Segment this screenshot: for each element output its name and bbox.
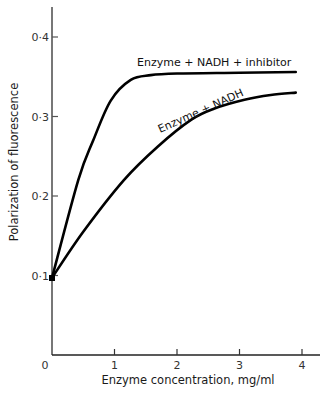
x-tick-label: 3 bbox=[236, 359, 243, 372]
series-lines bbox=[52, 72, 296, 278]
y-ticks: 0·10·20·30·4 bbox=[32, 31, 59, 283]
series-line-inhibitor bbox=[52, 72, 296, 278]
y-tick-label: 0·2 bbox=[32, 190, 50, 203]
series-label-inhibitor: Enzyme + NADH + inhibitor bbox=[137, 56, 292, 69]
y-tick-label: 0·3 bbox=[32, 111, 50, 124]
series-label-nadh: Enzyme + NADH bbox=[156, 86, 246, 135]
x-tick-label: 2 bbox=[174, 359, 181, 372]
x-tick-label: 4 bbox=[299, 359, 306, 372]
origin-point-marker bbox=[49, 275, 55, 281]
chart-figure: 0·10·20·30·4 01234 Enzyme + NADH + inhib… bbox=[0, 0, 330, 396]
y-axis-title: Polarization of fluorescence bbox=[7, 83, 21, 241]
x-axis-title: Enzyme concentration, mg/ml bbox=[101, 373, 274, 387]
y-tick-label: 0·4 bbox=[32, 31, 50, 44]
x-tick-label: 1 bbox=[111, 359, 118, 372]
y-tick-label: 0·1 bbox=[32, 270, 50, 283]
x-tick-label: 0 bbox=[42, 359, 49, 372]
x-ticks: 01234 bbox=[42, 349, 306, 372]
